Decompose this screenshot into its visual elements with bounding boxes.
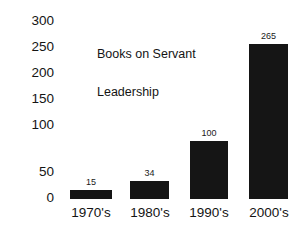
bar-value-label: 15: [70, 178, 112, 187]
bar: [130, 181, 169, 199]
bar: [70, 190, 112, 199]
x-tick-label: 1970's: [61, 206, 121, 220]
bar-value-label: 265: [249, 32, 288, 41]
bar-value-label: 100: [189, 129, 229, 138]
x-tick-label: 1990's: [179, 206, 239, 220]
x-tick-label: 1980's: [120, 206, 180, 220]
bar: [190, 141, 228, 199]
bar-value-label: 34: [130, 169, 169, 178]
plot-area: 15 1970's 34 1980's 100 1990's 265 2000'…: [0, 0, 305, 233]
bar-chart: 300 250 200 150 100 50 0 Books on Servan…: [0, 0, 305, 233]
bar: [249, 44, 288, 199]
x-tick-label: 2000's: [239, 206, 299, 220]
